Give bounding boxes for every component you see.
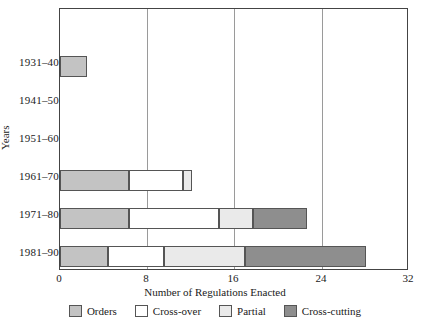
legend-label: Orders (87, 305, 117, 317)
legend-swatch-icon (135, 305, 148, 317)
y-tick-label-1941-50: 1941–50 (0, 94, 59, 106)
y-tick-label-1931-40: 1931–40 (0, 56, 59, 68)
bar-segment-orders (60, 208, 129, 229)
plot-area (59, 8, 408, 270)
legend-label: Cross-cutting (302, 305, 361, 317)
bar-segment-crossover (129, 208, 219, 229)
x-tick-label-24: 24 (316, 272, 327, 284)
y-tick-label-1971-80: 1971–80 (0, 208, 59, 220)
chart-legend: Orders Cross-over Partial Cross-cutting (0, 305, 430, 317)
y-tick-label-1951-60: 1951–60 (0, 132, 59, 144)
stacked-bar-chart: Years 1931–40 1941–50 1951–60 1961–70 19… (0, 0, 430, 326)
legend-item-partial: Partial (219, 305, 266, 317)
legend-item-crosscutting: Cross-cutting (284, 305, 361, 317)
gridline-24 (322, 9, 323, 269)
legend-item-orders: Orders (69, 305, 117, 317)
bar-segment-partial (183, 170, 192, 191)
bar-segment-crosscutting (245, 246, 366, 267)
x-tick-label-32: 32 (403, 272, 414, 284)
y-tick-label-1961-70: 1961–70 (0, 170, 59, 182)
legend-label: Partial (237, 305, 266, 317)
legend-swatch-icon (219, 305, 232, 317)
gridline-8 (147, 9, 148, 269)
bar-segment-crosscutting (253, 208, 307, 229)
bar-segment-orders (60, 170, 129, 191)
legend-item-crossover: Cross-over (135, 305, 201, 317)
x-tick-label-8: 8 (143, 272, 149, 284)
bar-segment-orders (60, 246, 108, 267)
x-axis-title: Number of Regulations Enacted (0, 286, 430, 298)
bar-segment-crossover (108, 246, 164, 267)
legend-swatch-icon (284, 305, 297, 317)
legend-swatch-icon (69, 305, 82, 317)
bar-segment-orders (60, 56, 87, 77)
bar-segment-crossover (129, 170, 183, 191)
bar-segment-partial (219, 208, 253, 229)
x-tick-label-0: 0 (56, 272, 62, 284)
legend-label: Cross-over (153, 305, 201, 317)
gridline-16 (234, 9, 235, 269)
y-tick-label-1981-90: 1981–90 (0, 246, 59, 258)
x-tick-label-16: 16 (228, 272, 239, 284)
bar-segment-partial (164, 246, 245, 267)
